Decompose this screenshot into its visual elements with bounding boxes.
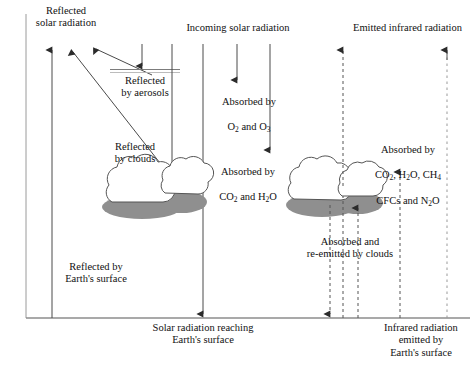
label-absorbed-ghg-line1: Absorbed by [381,144,435,155]
label-incoming-solar-radiation: Incoming solar radiation [143,22,333,34]
radiation-diagram: Reflected solar radiation Incoming solar… [0,0,476,379]
label-solar-radiation-reaching-surface: Solar radiation reaching Earth's surface [128,322,278,347]
arrow-reflected-by-aerosols [96,49,152,75]
label-absorbed-co2-h2o-formula: CO2 and H2O [219,191,277,202]
label-reflected-by-clouds: Reflected by clouds [95,141,175,166]
label-emitted-infrared-radiation: Emitted infrared radiation [340,22,475,34]
label-absorbed-co2-h2o: Absorbed by CO2 and H2O [200,154,296,205]
label-absorbed-o2-o3-formula: O2 and O3 [227,121,270,132]
label-absorbed-greenhouse-gases: Absorbed by CO2, H2O, CH4 CFCs and N2O [352,132,464,208]
label-absorbed-reemitted-by-clouds: Absorbed and re-emitted by clouds [288,236,412,261]
label-absorbed-co2-h2o-line1: Absorbed by [221,166,275,177]
label-absorbed-ghg-formula1: CO2, H2O, CH4 [375,169,441,180]
label-reflected-solar-radiation: Reflected solar radiation [6,5,126,30]
label-reflected-by-earths-surface: Reflected by Earth's surface [50,261,142,286]
label-infrared-radiation-emitted-surface: Infrared radiation emitted by Earth's su… [368,322,474,359]
label-reflected-by-aerosols: Reflected by aerosols [105,75,185,100]
label-absorbed-o2-o3: Absorbed by O2 and O3 [205,84,293,135]
label-absorbed-ghg-formula2: CFCs and N2O [376,195,439,206]
label-absorbed-o2-o3-line1: Absorbed by [222,96,276,107]
